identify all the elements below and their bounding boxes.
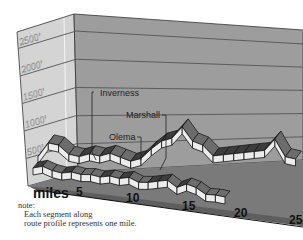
segment-front: [158, 180, 168, 188]
x-tick-label: 25: [289, 213, 303, 227]
segment-front: [223, 154, 233, 162]
place-label: Marshall: [126, 110, 160, 120]
segment-front: [139, 182, 149, 189]
segment-front: [215, 195, 225, 204]
place-label: Olema: [109, 132, 136, 142]
segment-front: [254, 150, 264, 158]
note-line-2: route profile represents one mile.: [18, 219, 137, 228]
x-tick-label: 5: [76, 185, 83, 199]
segment-front: [119, 177, 129, 185]
segment-front: [100, 176, 110, 184]
segment-front: [33, 166, 43, 175]
segment-front: [148, 181, 158, 189]
segment-front: [234, 153, 244, 161]
segment-front: [213, 155, 223, 163]
x-tick-label: 20: [234, 206, 248, 220]
x-axis-label: miles: [33, 185, 69, 201]
place-label: Inverness: [100, 88, 140, 98]
x-tick-label: 15: [182, 199, 196, 213]
segment-front: [62, 172, 72, 180]
segment-front: [244, 152, 254, 160]
segment-front: [81, 175, 91, 182]
segment-front: [206, 194, 216, 202]
footnote: note: Each segment along route profile r…: [18, 201, 137, 228]
